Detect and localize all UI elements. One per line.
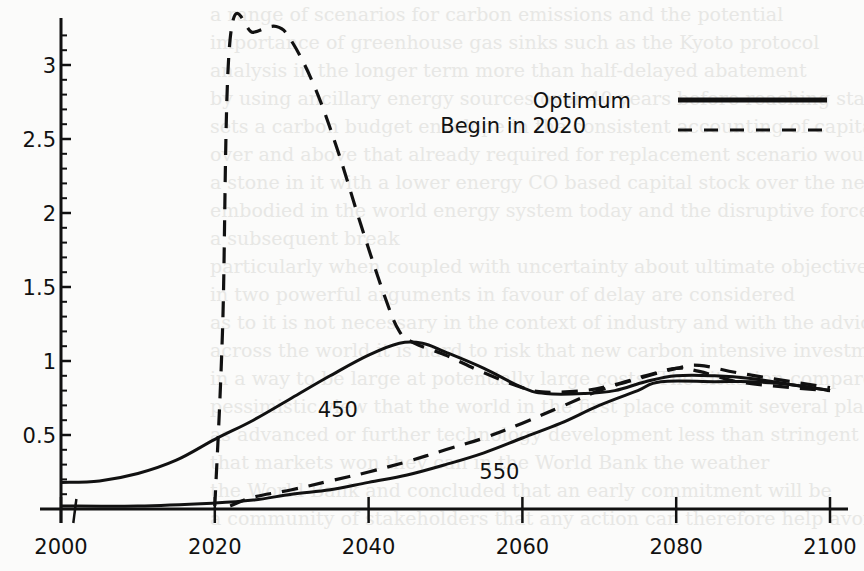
curve-label-450: 450 [318,398,358,422]
series-line-450-begin-in-2020 [215,13,830,506]
series-layer [61,13,830,506]
line-chart: 0.511.522.53200020202040206020802100 450… [0,0,864,571]
x-tick-label: 2040 [342,535,395,559]
legend-label-dashed: Begin in 2020 [440,114,586,138]
y-tick-label: 2 [43,202,56,226]
x-tick-label: 2100 [803,535,856,559]
x-tick-label: 2000 [34,535,87,559]
y-tick-label: 1 [43,350,56,374]
y-tick-label: 0.5 [23,424,56,448]
legend-label-solid: Optimum [533,89,631,113]
y-tick-label: 2.5 [23,128,56,152]
series-line-550-optimum [61,381,830,506]
series-line-450-optimum [61,342,830,483]
curve-label-550: 550 [479,460,519,484]
x-tick-label: 2080 [649,535,702,559]
x-minor-tick [73,499,76,523]
x-tick-label: 2060 [496,535,549,559]
x-tick-label: 2020 [188,535,241,559]
legend: OptimumBegin in 2020 [440,89,827,138]
y-tick-label: 1.5 [23,276,56,300]
y-tick-label: 3 [43,54,56,78]
